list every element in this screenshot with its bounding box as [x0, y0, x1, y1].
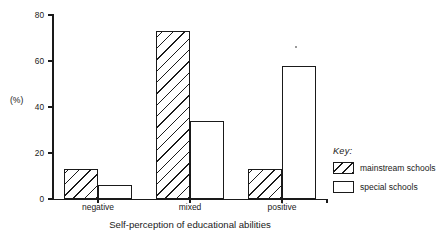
y-tick-mark: [48, 198, 52, 200]
y-tick-label: 0: [0, 195, 44, 203]
y-axis-line: [52, 14, 54, 200]
y-tick-label: 20: [0, 149, 44, 157]
white-swatch: [333, 181, 354, 193]
hatched-swatch: [333, 162, 354, 174]
y-tick-label: 60: [0, 57, 44, 65]
bar-mixed-special: [190, 121, 224, 199]
bar-negative-mainstream: [64, 169, 98, 199]
y-tick-mark: [48, 14, 52, 16]
y-tick-mark: [48, 60, 52, 62]
bar-negative-special: [98, 185, 132, 199]
legend-entries: mainstream schoolsspecial schools: [333, 162, 445, 193]
y-tick-label: 80: [0, 11, 44, 19]
legend: Key: mainstream schoolsspecial schools: [333, 146, 445, 200]
x-category-label-mixed: mixed: [150, 202, 230, 212]
y-tick-mark: [48, 106, 52, 108]
legend-title: Key:: [333, 146, 445, 157]
legend-item-mainstream: mainstream schools: [333, 162, 445, 174]
legend-label: mainstream schools: [360, 163, 436, 173]
chart-figure: 020406080 (%) negativemixedpositive Self…: [0, 0, 447, 243]
x-axis-title: Self-perception of educational abilities: [52, 219, 328, 231]
y-axis-title: (%): [10, 95, 23, 105]
legend-label: special schools: [360, 182, 418, 192]
bar-positive-special: [282, 66, 316, 199]
legend-item-special: special schools: [333, 181, 445, 193]
x-category-label-positive: positive: [242, 202, 322, 212]
bar-positive-mainstream: [248, 169, 282, 199]
bar-mixed-mainstream: [156, 31, 190, 199]
y-tick-mark: [48, 152, 52, 154]
x-category-label-negative: negative: [58, 202, 138, 212]
scan-artifact-dot: [295, 46, 297, 48]
x-axis-end-tick: [326, 199, 328, 203]
